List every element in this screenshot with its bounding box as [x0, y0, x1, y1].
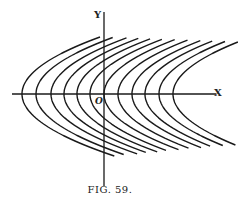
parabola-family-diagram: [0, 0, 249, 210]
origin-label: O: [95, 96, 103, 106]
x-axis-label: X: [214, 87, 222, 98]
figure-caption: FIG. 59.: [0, 184, 220, 195]
parabola-curve: [36, 38, 124, 155]
axes: [12, 12, 216, 186]
parabola-curves: [22, 37, 238, 156]
y-axis-label: Y: [94, 9, 101, 20]
